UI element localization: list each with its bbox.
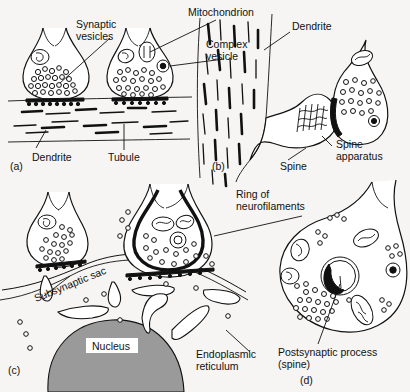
label-tubule: Tubule bbox=[108, 151, 140, 163]
label-dendrite-b: Dendrite bbox=[292, 20, 332, 32]
figure-canvas: Synaptic vesicles Mitochondrion Complex … bbox=[0, 0, 410, 392]
label-synaptic-vesicles-line2: vesicles bbox=[76, 30, 113, 42]
leader-spine bbox=[288, 148, 306, 160]
synaptic-bouton-b bbox=[330, 40, 387, 145]
tubule-group-a bbox=[14, 108, 188, 134]
synaptic-bouton-a2 bbox=[107, 28, 173, 105]
complex-vesicle-a2 bbox=[157, 60, 169, 72]
panel-marker-c: (c) bbox=[8, 364, 20, 376]
label-endoplasmic-line1: Endoplasmic bbox=[196, 348, 256, 360]
label-ring-neurofilaments-line1: Ring of bbox=[236, 188, 269, 200]
active-zone-a2 bbox=[112, 97, 168, 105]
panel-c: Nucleus Ring of neurofilaments Subsynapt… bbox=[0, 184, 305, 392]
leader-dendrite-b bbox=[264, 32, 290, 50]
panel-marker-a: (a) bbox=[10, 160, 23, 172]
mitochondrion-a2b bbox=[139, 42, 155, 62]
label-synaptic-vesicles-line1: Synaptic bbox=[76, 18, 116, 30]
mitochondrion-d2 bbox=[281, 268, 299, 284]
mitochondrion-c2a bbox=[152, 217, 174, 231]
complex-vesicle-d bbox=[386, 263, 400, 277]
label-mitochondrion: Mitochondrion bbox=[188, 6, 254, 18]
complex-vesicle-c2 bbox=[170, 232, 186, 248]
label-nucleus: Nucleus bbox=[92, 340, 130, 352]
label-endoplasmic-line2: reticulum bbox=[196, 360, 239, 372]
spine-b bbox=[250, 94, 338, 160]
synaptic-bouton-c1 bbox=[27, 192, 88, 272]
label-complex-vesicle-line2: vesicle bbox=[206, 50, 238, 62]
synaptic-bouton-c2 bbox=[118, 184, 215, 281]
label-spine-apparatus-line1: Spine bbox=[336, 138, 363, 150]
label-postsynaptic-line2: (spine) bbox=[278, 358, 310, 370]
postsynaptic-process-d bbox=[321, 257, 359, 295]
mitochondrion-a1 bbox=[31, 50, 49, 65]
label-ring-neurofilaments-line2: neurofilaments bbox=[236, 200, 305, 212]
mitochondrion-c1 bbox=[38, 215, 56, 229]
panel-marker-b: (b) bbox=[212, 160, 225, 172]
label-spine: Spine bbox=[280, 160, 307, 172]
leader-ring-neurofilaments bbox=[214, 216, 302, 236]
panel-marker-d: (d) bbox=[300, 374, 313, 386]
active-zone-a1 bbox=[26, 98, 84, 106]
complex-vesicle-b bbox=[369, 116, 380, 127]
dendrite-wall-left-b bbox=[197, 18, 200, 178]
nucleus-c bbox=[48, 320, 184, 392]
label-complex-vesicle-line1: Complex bbox=[206, 38, 248, 50]
label-spine-apparatus-line2: apparatus bbox=[336, 150, 383, 162]
label-dendrite-a: Dendrite bbox=[32, 151, 72, 163]
label-postsynaptic-line1: Postsynaptic process bbox=[278, 346, 377, 358]
